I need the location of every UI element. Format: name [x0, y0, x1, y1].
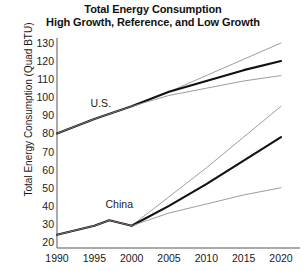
- series-line-china-lowgrowth: [57, 188, 281, 235]
- chart-container: Total Energy Consumption High Growth, Re…: [0, 0, 306, 271]
- series-line-china-highgrowth: [57, 106, 281, 234]
- plot-area: [0, 0, 306, 271]
- series-annotation-label: China: [106, 198, 133, 210]
- series-line-china-reference: [57, 137, 281, 235]
- series-annotation-label: U.S.: [91, 97, 111, 109]
